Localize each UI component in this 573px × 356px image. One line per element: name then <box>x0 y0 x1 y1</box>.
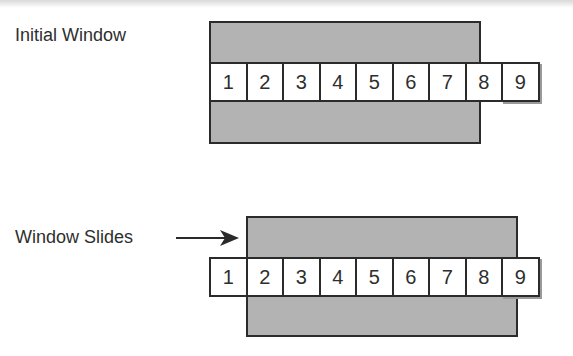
right-arrow-icon <box>176 229 242 247</box>
cell-9: 9 <box>501 62 540 102</box>
cell-5: 5 <box>355 62 394 102</box>
cell-2: 2 <box>246 257 285 297</box>
cell-3: 3 <box>282 62 321 102</box>
top-shading <box>0 0 573 8</box>
cell-2: 2 <box>246 62 285 102</box>
cell-1: 1 <box>209 62 248 102</box>
cell-8: 8 <box>465 62 504 102</box>
cell-4: 4 <box>319 62 358 102</box>
cell-5: 5 <box>355 257 394 297</box>
cell-1: 1 <box>209 257 248 297</box>
cell-9: 9 <box>501 257 540 297</box>
cell-7: 7 <box>428 62 467 102</box>
initial-window-label: Initial Window <box>15 25 126 46</box>
cell-4: 4 <box>319 257 358 297</box>
cell-3: 3 <box>282 257 321 297</box>
window-slides-label: Window Slides <box>15 227 133 248</box>
cell-6: 6 <box>392 257 431 297</box>
sequence-row-slid: 1 2 3 4 5 6 7 8 9 <box>209 257 540 297</box>
cell-6: 6 <box>392 62 431 102</box>
cell-8: 8 <box>465 257 504 297</box>
cell-7: 7 <box>428 257 467 297</box>
sequence-row-initial: 1 2 3 4 5 6 7 8 9 <box>209 62 540 102</box>
